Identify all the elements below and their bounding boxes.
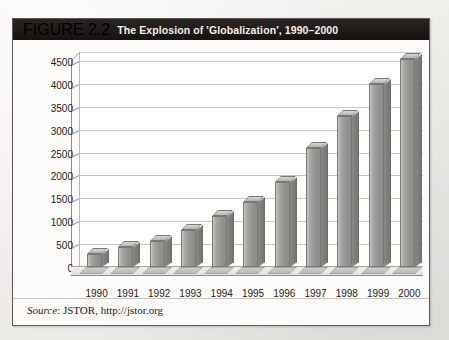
bar-front — [400, 59, 415, 267]
source-divider — [13, 298, 429, 299]
bar — [275, 182, 290, 267]
bar — [337, 116, 352, 267]
bar-front — [369, 84, 384, 267]
chart-area: 450040003500300025002000150010005000 199… — [13, 40, 429, 303]
y-axis-label: 3000 — [51, 125, 73, 136]
bar-front — [243, 202, 258, 267]
plot-region: 450040003500300025002000150010005000 — [71, 52, 423, 276]
figure-title: The Explosion of 'Globalization', 1990–2… — [117, 24, 338, 36]
bar-front — [87, 254, 102, 267]
bar-front — [275, 182, 290, 267]
bar-front — [181, 230, 196, 267]
bar-side — [290, 178, 297, 267]
bar — [118, 247, 133, 267]
bar-front — [337, 116, 352, 267]
bar-front — [306, 148, 321, 267]
bar-column — [79, 254, 110, 267]
figure-number: FIGURE 2.2 — [23, 21, 110, 39]
bar — [87, 254, 102, 267]
bar-side — [196, 226, 203, 267]
y-axis-label: 2000 — [51, 171, 73, 182]
bar-side — [227, 211, 234, 267]
bar — [243, 202, 258, 267]
bar — [181, 230, 196, 267]
bar-column — [110, 247, 141, 267]
x-axis-labels: 1990199119921993199419951996199719981999… — [71, 288, 423, 304]
bar-side — [321, 143, 328, 267]
bar — [306, 148, 321, 267]
y-axis-label: 4000 — [51, 79, 73, 90]
figure-header: FIGURE 2.2 The Explosion of 'Globalizati… — [13, 19, 429, 40]
bar-side — [415, 54, 422, 267]
bar — [150, 241, 165, 267]
bar-column — [298, 148, 329, 267]
bar — [212, 216, 227, 267]
bar-side — [258, 197, 265, 267]
y-axis-label: 4500 — [51, 57, 73, 68]
bar-side — [133, 243, 140, 267]
bar-column — [204, 216, 235, 267]
bar — [369, 84, 384, 267]
bar-column — [392, 59, 423, 267]
bar-front — [212, 216, 227, 267]
figure-box: FIGURE 2.2 The Explosion of 'Globalizati… — [12, 18, 430, 326]
bar-side — [352, 111, 359, 267]
y-axis-label: 1000 — [51, 217, 73, 228]
bar-series — [79, 52, 423, 267]
source-note: Source: JSTOR, http://jstor.org — [27, 304, 163, 316]
bar-front — [118, 247, 133, 267]
source-value: : JSTOR, http://jstor.org — [57, 304, 163, 316]
bar-side — [165, 237, 172, 267]
y-axis-label: 3500 — [51, 102, 73, 113]
bar-front — [150, 241, 165, 267]
source-label: Source — [27, 304, 57, 316]
bar-column — [235, 202, 266, 267]
bar-column — [329, 116, 360, 267]
y-axis-label: 500 — [56, 240, 73, 251]
bar-column — [267, 182, 298, 267]
bar-column — [173, 230, 204, 267]
y-axis-label: 2500 — [51, 148, 73, 159]
bar-column — [360, 84, 391, 267]
bar-side — [384, 79, 391, 267]
y-axis-label: 1500 — [51, 194, 73, 205]
bar — [400, 59, 415, 267]
bar-column — [142, 241, 173, 267]
